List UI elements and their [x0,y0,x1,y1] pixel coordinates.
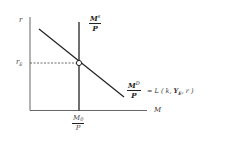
x-axis-label: M [154,107,161,114]
equilibrium-rate-subscript: E [19,62,22,67]
diagram-canvas [0,0,232,146]
money-stock-label: M0 P [72,115,84,132]
y-axis-label: r [19,17,22,24]
equilibrium-rate-label: rE [16,59,23,68]
money-supply-denominator: P [92,25,99,32]
money-demand-numerator: MD [127,81,141,89]
equilibrium-point [76,60,81,65]
money-stock-denominator: P [75,125,82,132]
money-demand-equation: = L ( k, YE, r ) [147,87,194,96]
money-demand-label: MD P [127,81,141,99]
money-market-diagram: r rE Ms P MD P = L ( k, YE, r ) M M0 P [0,0,232,146]
money-demand-denominator: P [130,92,137,99]
money-stock-numerator: M0 [72,115,84,122]
equation-suffix: , r ) [182,87,194,95]
money-supply-numerator: Ms [89,14,101,22]
equation-prefix: = L ( k, [147,87,174,95]
money-supply-label: Ms P [89,14,101,32]
